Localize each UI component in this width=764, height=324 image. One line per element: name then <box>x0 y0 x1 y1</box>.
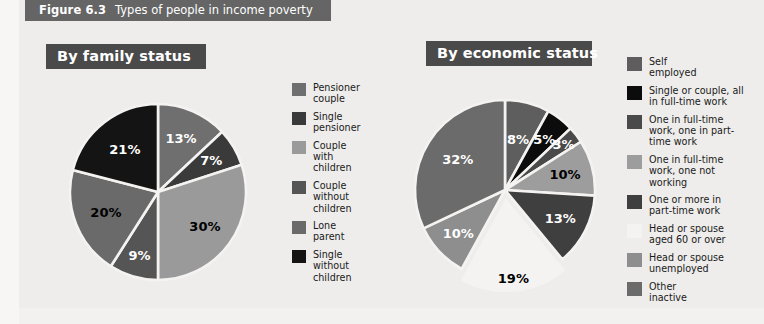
legend-item-label: Head or spouse aged 60 or over <box>649 223 726 246</box>
legend-item-label: Couple without children <box>313 180 352 214</box>
pie-slice-value-label: 32% <box>442 152 473 167</box>
legend-swatch-icon <box>292 141 306 154</box>
legend-item-label: Pensioner couple <box>313 82 360 105</box>
legend-item-label: One in full-time work, one not working <box>649 154 723 188</box>
legend-item-label: Other inactive <box>649 281 687 304</box>
page-left-margin <box>0 0 19 324</box>
legend-swatch-icon <box>292 181 306 194</box>
legend-swatch-icon <box>627 195 642 209</box>
legend-swatch-icon <box>627 57 642 71</box>
legend-item: Other inactive <box>627 281 759 304</box>
legend-swatch-icon <box>627 253 642 267</box>
legend-swatch-icon <box>292 221 306 234</box>
pie-slice-value-label: 9% <box>129 248 151 263</box>
legend-swatch-icon <box>292 250 306 263</box>
legend-item: Single or couple, all in full-time work <box>627 85 759 108</box>
panel-title-family-status: By family status <box>46 44 206 69</box>
pie-slice-value-label: 21% <box>109 142 140 157</box>
legend-swatch-icon <box>627 86 642 100</box>
legend-item-label: Single or couple, all in full-time work <box>649 85 744 108</box>
legend-item: Single without children <box>292 249 358 283</box>
page-bottom-margin <box>19 308 764 324</box>
legend-item: Couple with children <box>292 140 358 174</box>
pie-slice-value-label: 30% <box>189 219 220 234</box>
legend-swatch-icon <box>627 115 642 129</box>
figure-page: Figure 6.3Types of people in income pove… <box>0 0 764 324</box>
legend-swatch-icon <box>627 282 642 296</box>
legend-item: Single pensioner <box>292 111 358 134</box>
legend-economic-status: Self employedSingle or couple, all in fu… <box>627 56 759 309</box>
pie-chart-economic-status-svg: 8%5%3%10%13%19%10%32% <box>404 86 610 298</box>
pie-slice-value-label: 10% <box>549 167 580 182</box>
legend-item-label: Lone parent <box>313 220 344 243</box>
pie-chart-family-status: 13%7%30%9%20%21% <box>58 90 258 295</box>
figure-caption-text: Figure 6.3Types of people in income pove… <box>39 0 313 21</box>
legend-swatch-icon <box>292 112 306 125</box>
legend-swatch-icon <box>627 224 642 238</box>
legend-swatch-icon <box>292 83 306 96</box>
legend-item-label: Couple with children <box>313 140 352 174</box>
legend-item: Couple without children <box>292 180 358 214</box>
pie-chart-family-status-svg: 13%7%30%9%20%21% <box>58 90 258 295</box>
legend-item: One or more in part-time work <box>627 194 759 217</box>
legend-item: Lone parent <box>292 220 358 243</box>
pie-slice-value-label: 10% <box>443 226 474 241</box>
legend-item-label: Head or spouse unemployed <box>649 252 724 275</box>
figure-caption-bar: Figure 6.3Types of people in income pove… <box>25 0 331 21</box>
figure-number: Figure 6.3 <box>39 3 106 17</box>
legend-item-label: Single without children <box>313 249 352 283</box>
legend-item: One in full-time work, one not working <box>627 154 759 188</box>
pie-slice-value-label: 19% <box>498 271 529 286</box>
pie-slice-value-label: 7% <box>200 153 222 168</box>
legend-item: One in full-time work, one in part- time… <box>627 114 759 148</box>
pie-slice-value-label: 20% <box>90 205 121 220</box>
legend-item-label: Self employed <box>649 56 697 79</box>
legend-item-label: Single pensioner <box>313 111 361 134</box>
pie-slice-value-label: 13% <box>165 131 196 146</box>
pie-slice-value-label: 3% <box>552 137 574 152</box>
pie-chart-economic-status: 8%5%3%10%13%19%10%32% <box>404 86 610 298</box>
legend-item: Pensioner couple <box>292 82 358 105</box>
legend-item: Self employed <box>627 56 759 79</box>
legend-item-label: One in full-time work, one in part- time… <box>649 114 734 148</box>
legend-item: Head or spouse aged 60 or over <box>627 223 759 246</box>
figure-title: Types of people in income poverty <box>115 3 313 17</box>
legend-family-status: Pensioner coupleSingle pensionerCouple w… <box>292 82 358 289</box>
legend-item: Head or spouse unemployed <box>627 252 759 275</box>
legend-swatch-icon <box>627 155 642 169</box>
pie-slice-value-label: 13% <box>545 211 576 226</box>
pie-slice-value-label: 8% <box>507 132 529 147</box>
legend-item-label: One or more in part-time work <box>649 194 721 217</box>
panel-title-economic-status: By economic status <box>426 41 592 66</box>
